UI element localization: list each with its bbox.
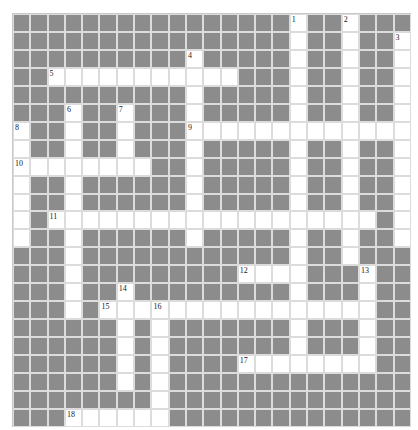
crossword-cell[interactable] bbox=[151, 337, 168, 355]
crossword-cell[interactable] bbox=[290, 247, 307, 265]
crossword-cell[interactable] bbox=[169, 301, 186, 319]
crossword-cell[interactable] bbox=[203, 301, 220, 319]
crossword-cell[interactable] bbox=[290, 194, 307, 212]
crossword-cell[interactable]: 4 bbox=[186, 50, 203, 68]
crossword-cell[interactable] bbox=[255, 355, 272, 373]
crossword-cell[interactable] bbox=[272, 265, 289, 283]
crossword-cell[interactable]: 15 bbox=[99, 301, 116, 319]
crossword-cell[interactable]: 1 bbox=[290, 14, 307, 32]
crossword-cell[interactable] bbox=[65, 247, 82, 265]
crossword-cell[interactable] bbox=[394, 50, 411, 68]
crossword-cell[interactable] bbox=[324, 355, 341, 373]
crossword-cell[interactable] bbox=[117, 211, 134, 229]
crossword-cell[interactable] bbox=[290, 229, 307, 247]
crossword-cell[interactable] bbox=[48, 158, 65, 176]
crossword-cell[interactable] bbox=[307, 355, 324, 373]
crossword-cell[interactable] bbox=[376, 122, 393, 140]
crossword-cell[interactable] bbox=[290, 122, 307, 140]
crossword-cell[interactable] bbox=[342, 104, 359, 122]
crossword-cell[interactable] bbox=[134, 409, 151, 427]
crossword-cell[interactable] bbox=[290, 319, 307, 337]
crossword-cell[interactable] bbox=[359, 301, 376, 319]
crossword-cell[interactable] bbox=[221, 68, 238, 86]
crossword-cell[interactable] bbox=[65, 211, 82, 229]
crossword-cell[interactable] bbox=[65, 229, 82, 247]
crossword-cell[interactable] bbox=[342, 301, 359, 319]
crossword-cell[interactable] bbox=[359, 211, 376, 229]
crossword-cell[interactable]: 14 bbox=[117, 283, 134, 301]
crossword-cell[interactable] bbox=[117, 355, 134, 373]
crossword-cell[interactable] bbox=[394, 104, 411, 122]
crossword-cell[interactable] bbox=[290, 301, 307, 319]
crossword-cell[interactable] bbox=[290, 283, 307, 301]
crossword-cell[interactable] bbox=[290, 158, 307, 176]
crossword-cell[interactable] bbox=[186, 104, 203, 122]
crossword-cell[interactable] bbox=[186, 211, 203, 229]
crossword-cell[interactable] bbox=[13, 194, 30, 212]
crossword-cell[interactable] bbox=[117, 68, 134, 86]
crossword-cell[interactable] bbox=[290, 140, 307, 158]
crossword-cell[interactable] bbox=[117, 122, 134, 140]
crossword-cell[interactable] bbox=[272, 301, 289, 319]
crossword-cell[interactable] bbox=[203, 68, 220, 86]
crossword-cell[interactable] bbox=[151, 391, 168, 409]
crossword-cell[interactable] bbox=[65, 140, 82, 158]
crossword-cell[interactable] bbox=[359, 122, 376, 140]
crossword-cell[interactable] bbox=[342, 140, 359, 158]
crossword-cell[interactable] bbox=[342, 176, 359, 194]
crossword-cell[interactable] bbox=[186, 176, 203, 194]
crossword-cell[interactable] bbox=[169, 68, 186, 86]
crossword-cell[interactable] bbox=[151, 355, 168, 373]
crossword-cell[interactable] bbox=[186, 86, 203, 104]
crossword-cell[interactable] bbox=[290, 355, 307, 373]
crossword-cell[interactable] bbox=[65, 176, 82, 194]
crossword-cell[interactable] bbox=[117, 373, 134, 391]
crossword-cell[interactable] bbox=[272, 355, 289, 373]
crossword-cell[interactable] bbox=[99, 211, 116, 229]
crossword-cell[interactable] bbox=[13, 140, 30, 158]
crossword-cell[interactable] bbox=[324, 122, 341, 140]
crossword-cell[interactable] bbox=[203, 122, 220, 140]
crossword-cell[interactable] bbox=[272, 122, 289, 140]
crossword-cell[interactable] bbox=[186, 68, 203, 86]
crossword-cell[interactable] bbox=[272, 211, 289, 229]
crossword-cell[interactable] bbox=[238, 301, 255, 319]
crossword-cell[interactable] bbox=[65, 68, 82, 86]
crossword-cell[interactable] bbox=[359, 283, 376, 301]
crossword-cell[interactable] bbox=[203, 211, 220, 229]
crossword-cell[interactable] bbox=[255, 211, 272, 229]
crossword-cell[interactable] bbox=[134, 158, 151, 176]
crossword-cell[interactable] bbox=[290, 32, 307, 50]
crossword-cell[interactable] bbox=[342, 122, 359, 140]
crossword-cell[interactable] bbox=[394, 158, 411, 176]
crossword-cell[interactable] bbox=[290, 68, 307, 86]
crossword-cell[interactable] bbox=[359, 319, 376, 337]
crossword-cell[interactable] bbox=[13, 211, 30, 229]
crossword-cell[interactable] bbox=[117, 301, 134, 319]
crossword-cell[interactable] bbox=[82, 211, 99, 229]
crossword-cell[interactable]: 9 bbox=[186, 122, 203, 140]
crossword-cell[interactable] bbox=[169, 211, 186, 229]
crossword-cell[interactable] bbox=[238, 122, 255, 140]
crossword-cell[interactable] bbox=[290, 86, 307, 104]
crossword-cell[interactable]: 17 bbox=[238, 355, 255, 373]
crossword-cell[interactable]: 12 bbox=[238, 265, 255, 283]
crossword-cell[interactable] bbox=[65, 283, 82, 301]
crossword-cell[interactable] bbox=[307, 122, 324, 140]
crossword-cell[interactable] bbox=[307, 211, 324, 229]
crossword-cell[interactable] bbox=[342, 50, 359, 68]
crossword-cell[interactable] bbox=[394, 176, 411, 194]
crossword-cell[interactable]: 10 bbox=[13, 158, 30, 176]
crossword-cell[interactable] bbox=[255, 122, 272, 140]
crossword-cell[interactable] bbox=[151, 319, 168, 337]
crossword-cell[interactable] bbox=[117, 319, 134, 337]
crossword-cell[interactable] bbox=[151, 409, 168, 427]
crossword-cell[interactable] bbox=[359, 337, 376, 355]
crossword-cell[interactable] bbox=[255, 301, 272, 319]
crossword-cell[interactable] bbox=[359, 355, 376, 373]
crossword-cell[interactable] bbox=[342, 229, 359, 247]
crossword-cell[interactable] bbox=[324, 301, 341, 319]
crossword-cell[interactable] bbox=[394, 211, 411, 229]
crossword-cell[interactable] bbox=[186, 301, 203, 319]
crossword-cell[interactable]: 8 bbox=[13, 122, 30, 140]
